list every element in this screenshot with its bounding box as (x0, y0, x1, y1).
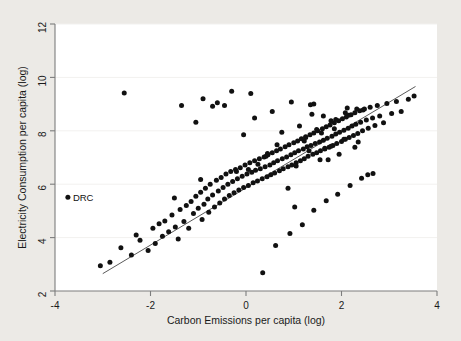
scatter-point (406, 97, 411, 102)
scatter-point (332, 126, 337, 131)
scatter-point (318, 157, 323, 162)
scatter-point (294, 164, 299, 169)
scatter-point (176, 236, 181, 241)
scatter-point (234, 169, 239, 174)
scatter-point (198, 190, 203, 195)
scatter-point (289, 99, 294, 104)
scatter-point (272, 170, 277, 175)
scatter-point (324, 198, 329, 203)
scatter-point (297, 123, 302, 128)
scatter-point (205, 196, 210, 201)
scatter-point (227, 193, 232, 198)
x-tick-label: 0 (243, 300, 249, 311)
scatter-point (306, 154, 311, 159)
scatter-point (314, 127, 319, 132)
scatter-point (366, 126, 371, 131)
scatter-point (333, 117, 338, 122)
scatter-point (255, 162, 260, 167)
scatter-point (134, 232, 139, 237)
scatter-point (153, 241, 158, 246)
screenshot-root: 24681012-4-2024Carbon Emissions per capi… (0, 0, 461, 341)
scatter-point (208, 182, 213, 187)
scatter-point (248, 91, 253, 96)
scatter-point (311, 208, 316, 213)
scatter-point (360, 128, 365, 133)
scatter-point (326, 157, 331, 162)
scatter-point (275, 142, 280, 147)
chart-figure: 24681012-4-2024Carbon Emissions per capi… (0, 0, 461, 341)
scatter-point (232, 190, 237, 195)
scatter-point (389, 111, 394, 116)
scatter-plot-svg: 24681012-4-2024Carbon Emissions per capi… (0, 0, 461, 341)
scatter-point (257, 156, 262, 161)
scatter-point (296, 148, 301, 153)
scatter-point (370, 115, 375, 120)
scatter-point (162, 219, 167, 224)
scatter-point (273, 243, 278, 248)
scatter-point (253, 168, 258, 173)
scatter-point (219, 175, 224, 180)
scatter-point (337, 152, 342, 157)
scatter-point (216, 188, 221, 193)
scatter-point (222, 103, 227, 108)
scatter-point (138, 238, 143, 243)
scatter-point (351, 133, 356, 138)
scatter-point (129, 252, 134, 257)
scatter-point (347, 135, 352, 140)
scatter-point (251, 180, 256, 185)
scatter-point (252, 115, 257, 120)
scatter-point (236, 188, 241, 193)
scatter-point (201, 96, 206, 101)
scatter-point (280, 156, 285, 161)
scatter-point (240, 174, 245, 179)
scatter-point (210, 192, 215, 197)
y-tick-label: 8 (37, 131, 48, 137)
scatter-point (348, 183, 353, 188)
scatter-point (384, 101, 389, 106)
scatter-point (345, 106, 350, 111)
scatter-point (354, 106, 359, 111)
scatter-point (394, 99, 399, 104)
scatter-point (308, 143, 313, 148)
scatter-point (244, 172, 249, 177)
scatter-point (255, 179, 260, 184)
scatter-point (246, 167, 251, 172)
scatter-point (260, 176, 265, 181)
scatter-point (368, 105, 373, 110)
scatter-point (189, 199, 194, 204)
scatter-point (337, 130, 342, 135)
scatter-point (381, 120, 386, 125)
scatter-point (200, 217, 205, 222)
scatter-point (247, 160, 252, 165)
scatter-point (270, 150, 275, 155)
scatter-point (229, 89, 234, 94)
scatter-point (371, 171, 376, 176)
scatter-point (122, 90, 127, 95)
scatter-point (352, 145, 357, 150)
scatter-point (328, 122, 333, 127)
scatter-point (325, 136, 330, 141)
scatter-point (321, 114, 326, 119)
annotation-label-drc: DRC (73, 192, 94, 203)
scatter-point (258, 166, 263, 171)
scatter-point (228, 169, 233, 174)
scatter-point (264, 154, 269, 159)
scatter-point (107, 260, 112, 265)
annotation-marker (65, 195, 70, 200)
scatter-point (360, 107, 365, 112)
scatter-point (225, 182, 230, 187)
scatter-point (181, 219, 186, 224)
scatter-point (412, 94, 417, 99)
scatter-point (193, 120, 198, 125)
scatter-point (222, 196, 227, 201)
scatter-point (160, 234, 165, 239)
scatter-point (335, 192, 340, 197)
scatter-point (281, 166, 286, 171)
scatter-point (309, 112, 314, 117)
scatter-point (215, 100, 220, 105)
scatter-point (286, 186, 291, 191)
scatter-point (341, 137, 346, 142)
scatter-point (118, 245, 123, 250)
scatter-point (346, 113, 351, 118)
scatter-point (238, 165, 243, 170)
